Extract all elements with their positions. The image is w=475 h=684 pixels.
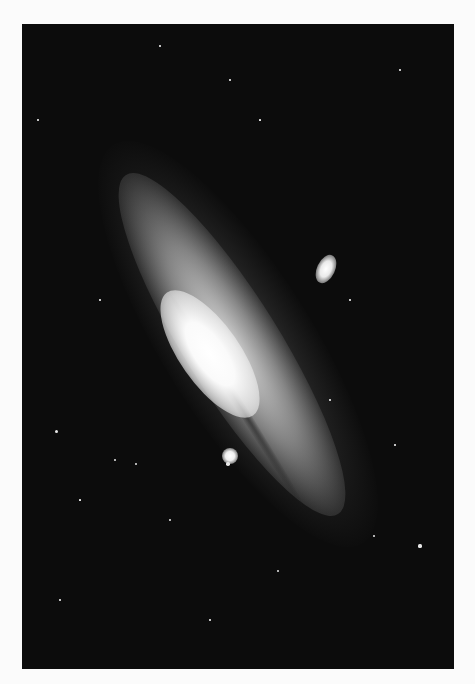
satellite-galaxy-lower [222, 448, 238, 464]
star [59, 599, 61, 601]
star [277, 570, 279, 572]
star [418, 544, 421, 547]
galaxy-photograph [22, 24, 454, 669]
star [329, 399, 331, 401]
star [226, 462, 230, 466]
star [209, 619, 210, 620]
star [373, 535, 375, 537]
star [114, 459, 116, 461]
star [349, 299, 350, 300]
satellite-galaxy-upper [312, 252, 341, 287]
star [55, 430, 58, 433]
star [399, 69, 401, 71]
star [37, 119, 39, 121]
star [99, 299, 100, 300]
star [169, 519, 171, 521]
star [79, 499, 80, 500]
star [259, 119, 260, 120]
star [135, 463, 137, 465]
star [229, 79, 230, 80]
star [394, 444, 396, 446]
star [159, 45, 161, 47]
